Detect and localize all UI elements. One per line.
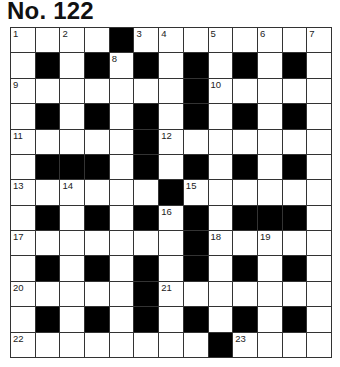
grid-cell[interactable] [209,130,233,154]
grid-cell[interactable]: 15 [184,180,208,204]
grid-cell[interactable] [307,79,331,103]
grid-cell[interactable] [209,53,233,77]
grid-cell[interactable] [36,180,60,204]
grid-cell[interactable] [60,282,84,306]
grid-cell[interactable]: 23 [233,333,257,357]
grid-cell[interactable] [110,79,134,103]
grid-cell[interactable] [11,256,35,280]
grid-cell[interactable] [36,28,60,52]
grid-cell[interactable] [258,155,282,179]
grid-cell[interactable] [184,282,208,306]
grid-cell[interactable] [60,130,84,154]
grid-cell[interactable] [134,231,158,255]
grid-cell[interactable] [110,231,134,255]
grid-cell[interactable] [184,28,208,52]
grid-cell[interactable] [85,28,109,52]
grid-cell[interactable] [307,130,331,154]
grid-cell[interactable]: 1 [11,28,35,52]
grid-cell[interactable] [159,307,183,331]
grid-cell[interactable] [233,28,257,52]
grid-cell[interactable] [307,206,331,230]
grid-cell[interactable] [283,282,307,306]
grid-cell[interactable]: 5 [209,28,233,52]
grid-cell[interactable] [60,231,84,255]
grid-cell[interactable]: 7 [307,28,331,52]
grid-cell[interactable] [258,53,282,77]
grid-cell[interactable]: 16 [159,206,183,230]
grid-cell[interactable] [36,231,60,255]
grid-cell[interactable] [36,130,60,154]
grid-cell[interactable] [110,282,134,306]
grid-cell[interactable] [11,104,35,128]
grid-cell[interactable] [60,104,84,128]
grid-cell[interactable] [159,79,183,103]
grid-cell[interactable] [110,206,134,230]
grid-cell[interactable] [36,333,60,357]
grid-cell[interactable] [85,231,109,255]
grid-cell[interactable] [307,231,331,255]
grid-cell[interactable] [258,333,282,357]
grid-cell[interactable] [233,180,257,204]
grid-cell[interactable] [209,206,233,230]
grid-cell[interactable] [60,333,84,357]
grid-cell[interactable] [85,79,109,103]
grid-cell[interactable] [233,231,257,255]
grid-cell[interactable] [283,180,307,204]
grid-cell[interactable]: 9 [11,79,35,103]
grid-cell[interactable] [159,104,183,128]
grid-cell[interactable]: 4 [159,28,183,52]
grid-cell[interactable] [11,206,35,230]
grid-cell[interactable] [110,104,134,128]
grid-cell[interactable] [258,256,282,280]
grid-cell[interactable] [184,333,208,357]
grid-cell[interactable] [307,180,331,204]
grid-cell[interactable] [283,231,307,255]
grid-cell[interactable] [233,282,257,306]
grid-cell[interactable] [184,130,208,154]
grid-cell[interactable] [283,333,307,357]
grid-cell[interactable] [307,53,331,77]
grid-cell[interactable] [307,256,331,280]
grid-cell[interactable] [60,256,84,280]
grid-cell[interactable] [134,79,158,103]
grid-cell[interactable] [209,282,233,306]
grid-cell[interactable] [159,256,183,280]
grid-cell[interactable]: 19 [258,231,282,255]
grid-cell[interactable]: 13 [11,180,35,204]
grid-cell[interactable]: 11 [11,130,35,154]
grid-cell[interactable]: 6 [258,28,282,52]
grid-cell[interactable] [233,79,257,103]
grid-cell[interactable] [307,282,331,306]
grid-cell[interactable] [307,104,331,128]
grid-cell[interactable] [258,130,282,154]
grid-cell[interactable] [209,104,233,128]
grid-cell[interactable]: 12 [159,130,183,154]
grid-cell[interactable]: 8 [110,53,134,77]
grid-cell[interactable]: 14 [60,180,84,204]
grid-cell[interactable] [36,79,60,103]
grid-cell[interactable] [159,231,183,255]
grid-cell[interactable] [258,282,282,306]
grid-cell[interactable] [85,282,109,306]
grid-cell[interactable]: 17 [11,231,35,255]
grid-cell[interactable] [134,333,158,357]
grid-cell[interactable] [60,307,84,331]
grid-cell[interactable] [11,307,35,331]
grid-cell[interactable] [258,307,282,331]
grid-cell[interactable] [110,256,134,280]
grid-cell[interactable] [307,307,331,331]
grid-cell[interactable]: 18 [209,231,233,255]
grid-cell[interactable] [85,333,109,357]
grid-cell[interactable] [283,28,307,52]
grid-cell[interactable] [159,53,183,77]
grid-cell[interactable] [258,180,282,204]
grid-cell[interactable]: 10 [209,79,233,103]
grid-cell[interactable] [11,155,35,179]
grid-cell[interactable] [110,307,134,331]
grid-cell[interactable] [85,180,109,204]
grid-cell[interactable] [110,130,134,154]
grid-cell[interactable] [283,79,307,103]
grid-cell[interactable] [110,180,134,204]
grid-cell[interactable] [209,307,233,331]
grid-cell[interactable] [209,256,233,280]
